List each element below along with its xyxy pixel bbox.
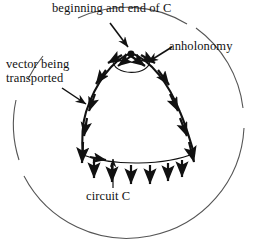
circuit-start-end-point: [128, 51, 135, 58]
label-vector-line-2: transported: [6, 71, 63, 85]
label-anholonomy: anholonomy: [169, 40, 233, 54]
label-vector-being-transported: vector beingtransported: [6, 58, 69, 85]
label-beginning-end-of-c: beginning and end of C: [52, 2, 172, 16]
circuit-left-edge: [82, 53, 131, 155]
anholonomy-figure: [0, 0, 261, 245]
leader-line-beginning-end: [110, 23, 128, 47]
label-circuit-c: circuit C: [86, 190, 130, 204]
transported-vector-arrows-right: [141, 55, 194, 162]
leader-line-vector-transported: [62, 88, 86, 104]
label-vector-line-1: vector being: [6, 57, 69, 71]
circuit-right-edge: [131, 53, 194, 153]
